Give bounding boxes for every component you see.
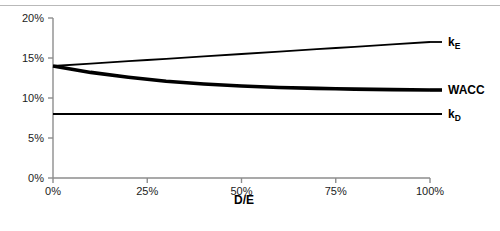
series-line-wacc (53, 66, 430, 90)
series-lines (53, 42, 430, 114)
chart-container: 0%5%10%15%20% 0%25%50%75%100% kEWACCkD D… (0, 0, 500, 231)
series-legend: kEWACCkD (430, 35, 485, 123)
legend-label-ke: kE (448, 35, 461, 51)
x-axis-tick-label: 0% (45, 185, 61, 197)
wacc-line-chart: 0%5%10%15%20% 0%25%50%75%100% kEWACCkD D… (0, 0, 500, 231)
y-axis-tick-label: 10% (22, 92, 44, 104)
x-axis-tick-label: 25% (136, 185, 158, 197)
y-axis-tick-label: 20% (22, 12, 44, 24)
x-axis-title: D/E (234, 193, 254, 207)
y-axis-tick-label: 15% (22, 52, 44, 64)
y-axis-tick-label: 5% (28, 132, 44, 144)
y-axis-tick-label: 0% (28, 172, 44, 184)
series-line-ke (53, 42, 430, 66)
legend-label-kd: kD (448, 107, 461, 123)
x-axis-tick-label: 100% (416, 185, 444, 197)
legend-label-subscript: D (455, 113, 461, 123)
legend-label-main: WACC (448, 83, 485, 97)
legend-label-wacc: WACC (448, 83, 485, 97)
legend-label-subscript: E (455, 41, 461, 51)
x-axis-tick-label: 75% (325, 185, 347, 197)
y-axis: 0%5%10%15%20% (22, 12, 53, 184)
